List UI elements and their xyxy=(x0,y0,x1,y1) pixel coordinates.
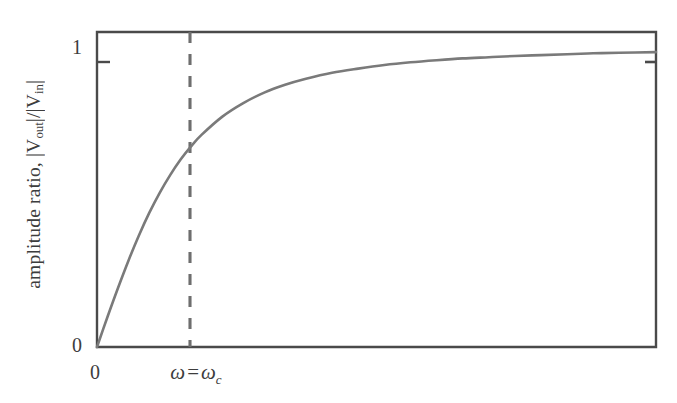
cutoff-frequency-label: ω=ωc xyxy=(150,360,242,388)
omega-c-symbol: ω xyxy=(201,360,216,384)
y-tick-label-1: 1 xyxy=(72,36,82,59)
chart-figure: amplitude ratio, |Vout|/|Vin| 1 0 0 ω=ωc xyxy=(0,0,677,403)
equals-symbol: = xyxy=(185,360,201,384)
axes-frame xyxy=(97,32,656,347)
y-tick-label-0: 0 xyxy=(72,334,82,357)
chart-canvas xyxy=(0,0,677,403)
omega-symbol: ω xyxy=(170,360,185,384)
omega-c-subscript: c xyxy=(216,372,222,387)
response-curve xyxy=(97,52,656,347)
x-tick-label-0: 0 xyxy=(90,361,100,384)
